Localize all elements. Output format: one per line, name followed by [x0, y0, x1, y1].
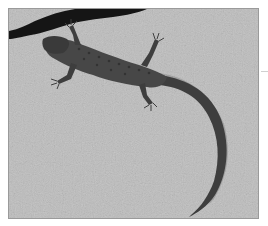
lizard-photo: [8, 8, 259, 219]
lizard-illustration: [9, 9, 259, 219]
edge-mark: [261, 71, 268, 72]
lizard-head: [42, 36, 69, 54]
